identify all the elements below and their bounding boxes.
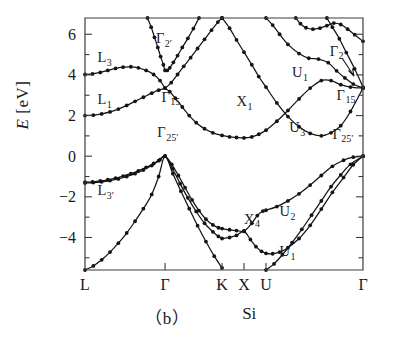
x-axis-tick-label: K: [216, 276, 228, 293]
band-symmetry-label-subscript: 15: [345, 94, 355, 105]
y-axis-tick-label: 4: [68, 66, 76, 83]
band-symmetry-label: L3: [98, 49, 112, 67]
figure-caption: （b） Si: [0, 304, 401, 338]
band-data-point: [235, 38, 239, 42]
band-data-point: [332, 21, 336, 25]
band-data-point: [286, 115, 290, 119]
band-data-point: [194, 210, 198, 214]
band-data-point: [144, 165, 148, 169]
band-data-point: [162, 63, 166, 67]
band-data-point: [304, 26, 308, 30]
band-data-point: [91, 181, 95, 185]
band-curve: [85, 156, 363, 254]
band-data-point: [116, 241, 120, 245]
band-data-point: [91, 264, 95, 268]
band-data-point: [311, 27, 315, 31]
band-data-point: [297, 237, 301, 241]
band-symmetry-label-text: U1: [292, 64, 308, 83]
band-data-point: [204, 240, 208, 244]
band-data-point: [351, 82, 355, 86]
band-data-point: [133, 99, 137, 103]
band-annotations-layer: L3L1Γ2′Γ15Γ25′L3′X1X4U1U3U2U1Γ2Γ15Γ25′: [98, 30, 356, 261]
band-data-point: [216, 20, 220, 24]
band-data-point: [108, 179, 112, 183]
band-data-point: [319, 199, 323, 203]
band-data-point: [349, 162, 353, 166]
band-data-point: [250, 135, 254, 139]
band-data-point: [108, 250, 112, 254]
band-data-point: [300, 227, 304, 231]
band-data-point: [271, 23, 275, 27]
band-symmetry-label: X4: [244, 211, 260, 230]
band-symmetry-label: Γ25′: [332, 126, 353, 145]
band-data-point: [325, 24, 329, 28]
band-data-point: [257, 75, 261, 79]
y-axis-tick-label: 0: [68, 148, 76, 165]
band-data-point: [353, 33, 357, 37]
band-data-point: [264, 208, 268, 212]
band-data-point: [275, 101, 279, 105]
band-data-point: [297, 52, 301, 56]
band-data-point: [194, 121, 198, 125]
band-data-point: [116, 107, 120, 111]
band-data-point: [133, 172, 137, 176]
band-data-point: [317, 57, 321, 61]
x-axis-tick-label: Γ: [160, 276, 169, 293]
band-data-point: [217, 235, 221, 239]
band-symmetry-label: Γ2′: [156, 30, 172, 49]
band-data-point: [177, 174, 181, 178]
band-data-point: [179, 189, 183, 193]
band-data-point: [196, 224, 200, 228]
band-symmetry-label: Γ15: [337, 87, 356, 106]
band-data-point: [250, 63, 254, 67]
band-data-point: [228, 135, 232, 139]
x-axis-tick-label: X: [238, 276, 250, 293]
band-symmetry-label-subscript: 4: [255, 218, 260, 229]
band-symmetry-label-subscript: 3: [107, 57, 112, 68]
band-data-point: [331, 164, 335, 168]
band-data-point: [203, 37, 207, 41]
band-data-point: [242, 50, 246, 54]
band-symmetry-label: U3: [289, 119, 305, 138]
band-data-point: [98, 71, 102, 75]
band-symmetry-label-text: U2: [280, 203, 296, 222]
band-symmetry-label: U1: [292, 64, 308, 83]
band-markers-layer: [83, 16, 365, 272]
band-symmetry-label-subscript: 2′: [165, 38, 172, 49]
band-data-point: [235, 234, 239, 238]
band-data-point: [211, 131, 215, 135]
band-curve: [85, 67, 363, 138]
band-symmetry-label-text: Γ25′: [157, 124, 178, 143]
band-data-point: [186, 196, 190, 200]
band-data-point: [228, 26, 232, 30]
band-data-point: [203, 221, 207, 225]
band-data-point: [129, 172, 133, 176]
band-data-point: [133, 219, 137, 223]
band-data-point: [344, 51, 348, 55]
x-axis-tick-label: L: [80, 276, 90, 293]
band-symmetry-label: L3′: [98, 182, 115, 201]
band-data-point: [176, 73, 180, 77]
band-structure-plot: −4−20246LΓKXUΓ L3L1Γ2′Γ15Γ25′L3′X1X4U1U3…: [0, 0, 401, 354]
band-structure-figure: E [eV] −4−20246LΓKXUΓ L3L1Γ2′Γ15Γ25′L3′X…: [0, 0, 401, 354]
band-data-point: [121, 174, 125, 178]
band-data-point: [211, 230, 215, 234]
band-data-point: [203, 127, 207, 131]
band-data-point: [159, 55, 163, 59]
band-symmetry-label-text: Γ2′: [156, 30, 172, 49]
band-data-point: [129, 65, 133, 69]
band-data-point: [180, 105, 184, 109]
band-data-point: [183, 186, 187, 190]
band-symmetry-label: Γ2: [330, 43, 344, 62]
band-data-point: [339, 23, 343, 27]
band-data-point: [308, 132, 312, 136]
y-axis-tick-label: 2: [68, 107, 76, 124]
y-axis-tick-label: −4: [59, 229, 76, 246]
band-data-point: [349, 85, 353, 89]
band-symmetry-label-subscript: 25′: [166, 132, 178, 143]
band-symmetry-label-text: Γ15: [337, 87, 356, 106]
band-data-point: [242, 136, 246, 140]
band-data-point: [228, 236, 232, 240]
band-data-point: [152, 73, 156, 77]
band-data-point: [319, 174, 323, 178]
